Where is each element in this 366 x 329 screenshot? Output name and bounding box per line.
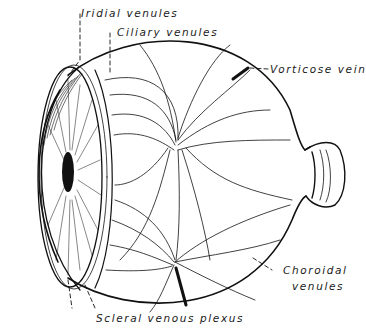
label-iridial-venules: Iridial venules xyxy=(81,8,178,19)
label-ciliary-venules: Ciliary venules xyxy=(117,27,218,38)
label-vorticose-vein: Vorticose vein xyxy=(270,64,366,75)
limbus xyxy=(41,65,107,289)
label-choroidal-venules-line1: Choroidal xyxy=(283,265,348,276)
sclera-outline xyxy=(39,41,310,303)
choroidal-venule-stub xyxy=(176,268,186,305)
pupil xyxy=(62,152,74,192)
choroidal-venules xyxy=(105,45,292,312)
optic-nerve xyxy=(305,143,345,207)
label-choroidal-venules-line2: venules xyxy=(292,281,344,292)
vorticose-vein-stub xyxy=(233,68,248,79)
label-scleral-venous-plexus: Scleral venous plexus xyxy=(96,313,244,324)
